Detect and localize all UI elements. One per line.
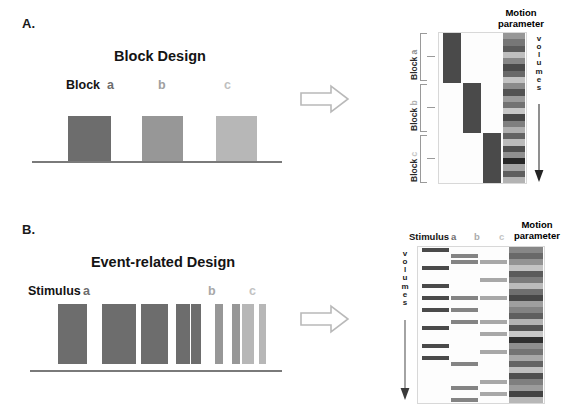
panel-b-title: Event-related Design <box>48 254 278 270</box>
matrix-b-event-a <box>422 296 449 299</box>
event-bar-b <box>232 304 239 364</box>
matrix-b-event-b <box>451 308 478 311</box>
stimulus-label-a: a <box>83 284 90 298</box>
event-bar-a <box>156 304 168 364</box>
matrix-b-event-a <box>422 266 449 269</box>
matrix-a-regressor-c <box>483 133 501 183</box>
stimulus-header-col-c: c <box>499 232 504 243</box>
matrix-b-event-b <box>451 260 478 263</box>
baseline-a <box>32 161 282 163</box>
matrix-a-regressor-b <box>463 83 481 133</box>
motion-parameter-header-a: Motion parameter <box>485 8 557 30</box>
motion-stripe <box>509 397 542 403</box>
event-bars-container <box>22 298 282 364</box>
matrix-a-motion-parameter-column <box>503 33 525 183</box>
bracket-c-tick <box>427 158 435 159</box>
bracket-a-label: Block a <box>409 34 419 80</box>
stimulus-label-c: c <box>249 284 256 298</box>
block-design-schematic: Block a b c <box>22 78 272 168</box>
matrix-grid-b <box>417 246 545 404</box>
event-bar-a <box>191 304 202 364</box>
down-arrow-icon-a <box>533 104 545 188</box>
stimulus-label-prefix: Stimulus <box>28 284 81 298</box>
panel-b-letter: B. <box>22 222 35 237</box>
matrix-b-event-b <box>451 398 478 401</box>
matrix-b-event-b <box>451 386 478 389</box>
matrix-b-event-b <box>451 320 478 323</box>
volumes-axis-label-a: v o l u m e s <box>533 35 545 92</box>
motion-parameter-header-b: Motion parameter <box>509 220 565 242</box>
matrix-b-event-b <box>451 254 478 257</box>
stimulus-header-col-b: b <box>474 232 480 243</box>
block-bar-a <box>68 116 111 162</box>
event-bar-a <box>80 304 87 364</box>
matrix-b-event-c <box>480 296 507 299</box>
matrix-a-regressor-a <box>443 33 461 83</box>
matrix-b-event-a <box>422 284 449 287</box>
panel-a-title: Block Design <box>70 48 250 64</box>
panel-b: B. Event-related Design Stimulus a b c S… <box>0 208 565 416</box>
matrix-b-event-b <box>451 362 478 365</box>
matrix-b-event-b <box>451 296 478 299</box>
bracket-b <box>420 84 427 132</box>
matrix-b-event-c <box>480 332 507 335</box>
event-bar-c <box>242 304 254 364</box>
volumes-axis-label-b: v o l u m e s <box>399 250 411 307</box>
matrix-grid-a <box>438 32 527 184</box>
block-label-a: a <box>107 78 114 92</box>
baseline-b <box>30 370 282 372</box>
transform-arrow-b <box>300 304 350 338</box>
design-matrix-a: Motion parameter Block a Block b Block c <box>395 8 565 203</box>
matrix-b-event-a <box>422 356 449 359</box>
matrix-b-event-a <box>422 308 449 311</box>
event-bar-c <box>259 304 266 364</box>
matrix-b-event-c <box>480 278 507 281</box>
design-matrix-b: Stimulus a b c Motion parameter v o l u … <box>395 218 565 414</box>
bracket-b-label: Block b <box>409 85 419 131</box>
matrix-b-event-a <box>422 248 449 251</box>
matrix-b-event-c <box>480 392 507 395</box>
stimulus-label-b: b <box>208 284 216 298</box>
panel-a: A. Block Design Block a b c Motion param… <box>0 0 565 208</box>
bracket-a-tick <box>427 56 435 57</box>
block-label-b: b <box>158 78 166 92</box>
block-bar-b <box>142 116 183 162</box>
matrix-b-motion-parameter-column <box>509 247 542 403</box>
matrix-b-event-c <box>480 260 507 263</box>
event-bar-b <box>215 304 223 364</box>
stimulus-header-col-a: a <box>451 232 456 243</box>
block-label-prefix: Block <box>66 78 100 92</box>
motion-stripe <box>503 177 525 183</box>
down-arrow-icon-b <box>399 320 411 406</box>
stimulus-header-b: Stimulus <box>409 232 449 243</box>
block-label-c: c <box>224 78 231 92</box>
matrix-b-event-c <box>480 320 507 323</box>
bracket-c <box>420 135 427 183</box>
bracket-a <box>420 33 427 81</box>
event-bar-a <box>127 304 136 364</box>
transform-arrow-a <box>300 84 350 118</box>
matrix-b-event-c <box>480 380 507 383</box>
matrix-b-event-a <box>422 344 449 347</box>
bracket-b-tick <box>427 107 435 108</box>
motion-header-line2-b: parameter <box>509 231 565 242</box>
event-bar-a <box>183 304 190 364</box>
matrix-b-event-a <box>422 326 449 329</box>
event-design-schematic: Stimulus a b c <box>22 284 282 378</box>
bracket-c-label: Block c <box>409 136 419 182</box>
block-bar-c <box>216 116 257 162</box>
panel-a-letter: A. <box>22 16 35 31</box>
matrix-b-event-c <box>480 350 507 353</box>
motion-header-line2: parameter <box>485 19 557 30</box>
